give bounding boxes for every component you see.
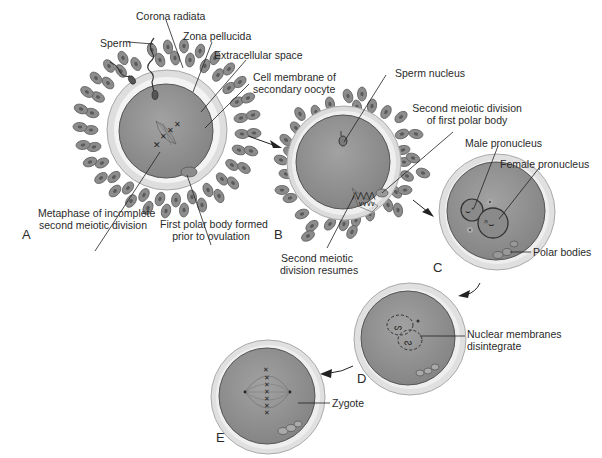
svg-text:ᔓ: ᔓ <box>404 337 412 347</box>
label-female-pronucleus: Female pronucleus <box>500 158 589 170</box>
label-zona-pellucida: Zona pellucida <box>183 30 251 42</box>
svg-text:✕: ✕ <box>263 366 269 374</box>
stage-e-zygote: ✕ ✕ ✕ ✕ ✕ ✕ ✕ <box>211 340 325 454</box>
label-sperm: Sperm <box>100 37 131 49</box>
svg-text:ᔕ: ᔕ <box>394 322 402 332</box>
svg-text:✕: ✕ <box>160 132 167 141</box>
svg-text:⌣ᐩ: ⌣ᐩ <box>465 206 475 216</box>
stage-letter-b: B <box>274 227 283 242</box>
svg-text:✕: ✕ <box>264 409 270 417</box>
label-metaphase-line2: second meiotic division <box>38 219 148 231</box>
label-cell-membrane-line1: Cell membrane of <box>253 71 336 83</box>
svg-text:✕: ✕ <box>174 120 181 129</box>
label-second-meiotic-resumes-line2: division resumes <box>280 264 354 276</box>
label-male-pronucleus: Male pronucleus <box>465 137 542 149</box>
label-cell-membrane-line2: secondary oocyte <box>253 83 335 95</box>
stage-a-oocyte: ✕ ✕ ✕ ✕ <box>73 38 262 219</box>
label-corona-radiata: Corona radiata <box>136 10 205 22</box>
svg-text:ᐢ⌣: ᐢ⌣ <box>484 219 495 230</box>
label-metaphase-line1: Metaphase of incomplete <box>38 207 148 219</box>
label-zygote: Zygote <box>332 397 364 409</box>
svg-text:✕: ✕ <box>153 140 161 150</box>
arrow-c-to-d <box>458 283 480 298</box>
stage-letter-c: C <box>433 260 442 275</box>
stage-letter-a: A <box>22 227 31 242</box>
label-first-polar-line2: prior to ovulation <box>160 230 262 242</box>
arrow-b-to-c <box>413 200 434 217</box>
label-second-meiotic-resumes-line1: Second meiotic <box>280 252 354 264</box>
label-second-meiotic-polar-line2: of first polar body <box>408 114 526 126</box>
label-sperm-nucleus: Sperm nucleus <box>395 67 465 79</box>
label-first-polar-line1: First polar body formed <box>160 218 262 230</box>
label-second-meiotic-polar-line1: Second meiotic division <box>408 102 526 114</box>
stage-letter-e: E <box>216 430 225 445</box>
label-nuclear-membranes-line2: disintegrate <box>467 340 521 352</box>
label-polar-bodies: Polar bodies <box>533 246 591 258</box>
arrow-a-to-b <box>248 136 282 148</box>
svg-text:✕: ✕ <box>167 126 174 135</box>
label-nuclear-membranes-line1: Nuclear membranes <box>467 328 562 340</box>
label-extracellular-space: Extracellular space <box>214 49 303 61</box>
stage-d-oocyte: ᔕ ᔓ <box>354 283 466 395</box>
stage-letter-d: D <box>357 371 366 386</box>
arrow-d-to-e <box>320 366 353 378</box>
